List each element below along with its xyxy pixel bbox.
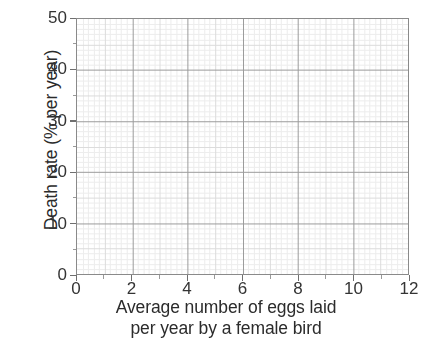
x-axis-title-line-2: per year by a female bird	[56, 318, 396, 339]
x-tick-label: 8	[278, 279, 318, 299]
x-tick-mark	[298, 275, 299, 281]
x-tick-label: 6	[223, 279, 263, 299]
x-minor-tick-mark	[325, 275, 326, 279]
x-minor-tick-mark	[159, 275, 160, 279]
x-tick-mark	[131, 275, 132, 281]
x-axis-title: Average number of eggs laid per year by …	[56, 297, 396, 339]
x-tick-mark	[353, 275, 354, 281]
x-tick-label: 12	[389, 279, 424, 299]
grid-canvas	[77, 19, 408, 274]
x-axis-title-line-1: Average number of eggs laid	[56, 297, 396, 318]
x-minor-tick-mark	[214, 275, 215, 279]
x-minor-tick-mark	[103, 275, 104, 279]
x-tick-label: 10	[334, 279, 374, 299]
x-tick-mark	[76, 275, 77, 281]
x-minor-tick-mark	[270, 275, 271, 279]
x-tick-mark	[242, 275, 243, 281]
x-tick-label: 2	[112, 279, 152, 299]
x-minor-tick-mark	[381, 275, 382, 279]
x-tick-mark	[409, 275, 410, 281]
x-tick-label: 4	[167, 279, 207, 299]
x-tick-mark	[187, 275, 188, 281]
y-axis-title: Death rate (% per year)	[34, 0, 68, 285]
chart-figure: Death rate (% per year) 01020304050 0246…	[0, 0, 424, 357]
plot-area	[76, 18, 409, 275]
